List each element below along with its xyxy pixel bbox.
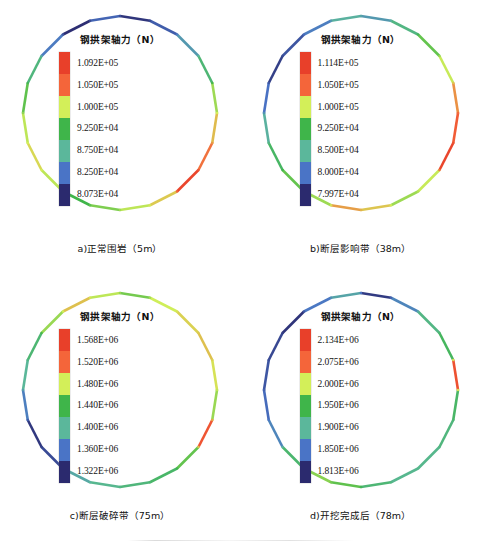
ring-segment [361,16,391,21]
ring-segment [264,360,269,390]
ring-vertex [89,296,92,299]
ring-segment [303,21,330,35]
ring-segment [264,390,269,420]
ring-segment [390,468,417,482]
ring-plot-d [254,283,468,497]
ring-segment [150,21,177,35]
tunnel-ring-svg-d [254,283,468,497]
ring-segment [63,191,90,205]
ring-vertex [149,481,152,484]
ring-segment [439,143,453,170]
ring-segment [63,468,90,482]
ring-segment [120,482,150,487]
ring-vertex [262,112,265,115]
ring-segment [418,35,439,56]
panel-caption-b: b)断层影响带（38m） [240,241,481,255]
ring-segment [42,312,63,333]
ring-vertex [22,389,25,392]
ring-segment [390,191,417,205]
ring-vertex [119,15,122,18]
ring-vertex [119,486,122,489]
ring-vertex [40,332,43,335]
ring-segment [177,35,198,56]
ring-segment [282,447,303,468]
ring-segment [90,16,120,21]
ring-vertex [438,55,441,58]
ring-vertex [62,190,65,193]
ring-vertex [329,204,332,207]
ring-vertex [267,142,270,145]
ring-vertex [302,190,305,193]
ring-vertex [40,169,43,172]
ring-vertex [211,82,214,85]
ring-vertex [389,296,392,299]
ring-segment [453,83,458,113]
ring-vertex [329,296,332,299]
ring-segment [63,298,90,312]
ring-vertex [267,359,270,362]
ring-vertex [456,112,459,115]
ring-segment [212,390,217,420]
ring-segment [177,170,198,191]
ring-vertex [216,112,219,115]
ring-segment [282,35,303,56]
ring-segment [198,333,212,360]
ring-vertex [451,419,454,422]
ring-segment [42,447,63,468]
ring-vertex [149,19,152,22]
ring-vertex [456,389,459,392]
ring-vertex [62,467,65,470]
ring-vertex [197,332,200,335]
ring-vertex [359,292,362,295]
ring-segment [150,191,177,205]
ring-segment [331,482,361,487]
ring-segment [150,468,177,482]
ring-plot-b [254,6,468,220]
ring-vertex [211,419,214,422]
ring-segment [439,420,453,447]
ring-vertex [26,82,29,85]
ring-vertex [438,169,441,172]
ring-vertex [389,19,392,22]
ring-vertex [62,33,65,36]
ring-segment [63,21,90,35]
ring-vertex [416,467,419,470]
panel-b: 钢拱架轴力（N） 1.114E+05 1.050E+05 1.000E+05 9… [240,0,481,273]
ring-segment [198,420,212,447]
ring-segment [28,333,42,360]
ring-segment [282,170,303,191]
ring-vertex [281,169,284,172]
ring-vertex [40,446,43,449]
ring-vertex [149,204,152,207]
figure-grid: 钢拱架轴力（N） 1.092E+05 1.050E+05 1.000E+05 9… [0,0,481,546]
ring-vertex [26,142,29,145]
ring-segment [120,205,150,210]
ring-vertex [267,82,270,85]
ring-vertex [302,467,305,470]
ring-vertex [176,310,179,313]
panel-a: 钢拱架轴力（N） 1.092E+05 1.050E+05 1.000E+05 9… [0,0,240,273]
ring-segment [264,83,269,113]
ring-segment [198,143,212,170]
ring-vertex [389,204,392,207]
ring-vertex [329,481,332,484]
ring-segment [268,333,282,360]
ring-segment [212,113,217,143]
ring-vertex [26,359,29,362]
panel-caption-c: c)断层破碎带（75m） [0,508,240,522]
tunnel-ring-svg-c [13,283,227,497]
ring-vertex [197,446,200,449]
ring-vertex [302,310,305,313]
ring-vertex [359,15,362,18]
ring-segment [303,298,330,312]
tunnel-ring-svg-a [13,6,227,220]
ring-vertex [281,55,284,58]
ring-segment [418,312,439,333]
ring-vertex [216,389,219,392]
ring-vertex [281,446,284,449]
ring-vertex [359,486,362,489]
ring-vertex [149,296,152,299]
ring-vertex [89,204,92,207]
panel-caption-d: d)开挖完成后（78m） [240,508,481,522]
ring-vertex [262,389,265,392]
